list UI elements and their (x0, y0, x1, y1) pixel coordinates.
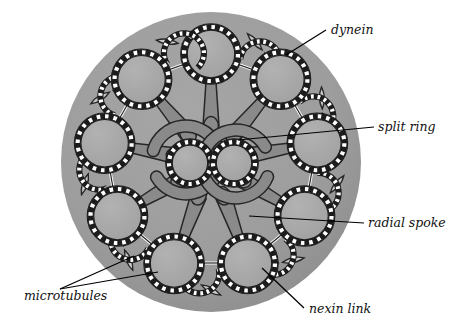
a-tubule-4-wall (278, 189, 332, 243)
a-tubule-2-wall (253, 52, 307, 106)
a-tubule-4 (274, 186, 335, 247)
a-tubule-7-wall (90, 189, 144, 243)
a-tubule-5 (218, 233, 279, 294)
a-tubule-8-wall (78, 116, 132, 170)
a-tubule-8 (74, 113, 135, 174)
a-tubule-6 (144, 233, 205, 294)
label-radial-spoke: radial spoke (368, 215, 446, 230)
a-tubule-9 (111, 49, 172, 110)
a-tubule-3 (287, 113, 348, 174)
label-split-ring: split ring (378, 119, 435, 134)
central-singlet-2 (210, 139, 259, 188)
label-microtubules: microtubules (24, 288, 107, 303)
central-singlet-1 (166, 139, 215, 188)
a-tubule-5-wall (221, 236, 275, 290)
a-tubule-7 (87, 186, 148, 247)
axoneme-cross-section-diagram: dyneinsplit ringradial spokemicrotubules… (0, 0, 456, 335)
a-tubule-3-wall (290, 116, 344, 170)
a-tubule-9-wall (115, 52, 169, 106)
label-nexin-link: nexin link (309, 301, 371, 316)
label-dynein: dynein (331, 22, 374, 37)
a-tubule-2 (250, 49, 311, 110)
a-tubule-6-wall (147, 236, 201, 290)
figure-canvas: dyneinsplit ringradial spokemicrotubules… (0, 0, 456, 335)
